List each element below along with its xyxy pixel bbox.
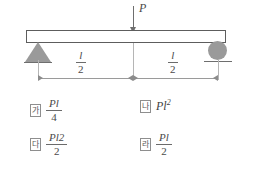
option-na-expression: Pl2 (156, 98, 171, 114)
fraction-right-denominator: 2 (168, 62, 178, 75)
dimension-label-left: l 2 (76, 50, 86, 75)
dimension-arrow-right-end (213, 75, 218, 81)
beam-diagram: P l 2 l 2 (0, 0, 253, 88)
option-na-marker: 나 (140, 100, 151, 113)
witness-line-right (218, 60, 219, 80)
dimension-line-left (38, 78, 133, 79)
option-da-marker: 다 (30, 138, 41, 151)
option-ra-marker: 라 (140, 138, 151, 151)
option-da[interactable]: 다 Pl2 2 (30, 132, 67, 157)
fraction-left-numerator: l (76, 50, 86, 62)
option-da-denominator: 2 (46, 144, 67, 157)
answer-options: 가 Pl 4 나 Pl2 다 Pl2 2 라 Pl 2 (0, 88, 253, 169)
pin-support-icon (25, 42, 51, 62)
screenshot-root: P l 2 l 2 가 (0, 0, 253, 169)
option-ga-numerator: Pl (46, 98, 62, 110)
option-da-exponent: 2 (59, 131, 65, 143)
option-ga-marker: 가 (30, 104, 41, 117)
option-da-numerator-base: Pl (49, 131, 59, 143)
fraction-right: l 2 (168, 50, 178, 75)
option-ra[interactable]: 라 Pl 2 (140, 132, 172, 157)
option-ga-denominator: 4 (46, 110, 62, 123)
dimension-arrow-right-start (133, 75, 138, 81)
point-load-label: P (139, 2, 146, 14)
dimension-label-right: l 2 (168, 50, 178, 75)
beam-body (26, 30, 226, 43)
option-ga[interactable]: 가 Pl 4 (30, 98, 62, 123)
roller-support-icon (208, 41, 227, 60)
option-ra-denominator: 2 (156, 144, 172, 157)
dimension-line-right (133, 78, 218, 79)
option-na[interactable]: 나 Pl2 (140, 98, 171, 114)
option-ra-numerator: Pl (156, 132, 172, 144)
fraction-right-numerator: l (168, 50, 178, 62)
option-da-numerator: Pl2 (46, 132, 67, 144)
option-ra-expression: Pl 2 (156, 132, 172, 157)
option-ga-expression: Pl 4 (46, 98, 62, 123)
dimension-arrow-left-start (38, 75, 43, 81)
fraction-left: l 2 (76, 50, 86, 75)
option-da-expression: Pl2 2 (46, 132, 67, 157)
option-na-base: Pl (156, 99, 167, 113)
fraction-left-denominator: 2 (76, 62, 86, 75)
option-na-exponent: 2 (167, 98, 171, 107)
